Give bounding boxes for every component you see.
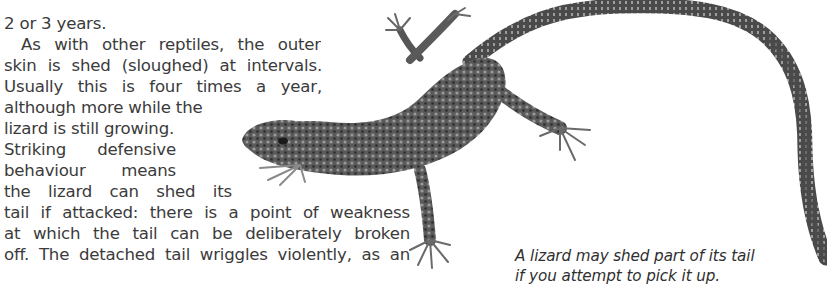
body-text: vigorous 2 or 3 years. As with other rep… — [4, 0, 412, 265]
text-line: skin is shed (sloughed) at intervals. — [4, 55, 322, 76]
text-line: tail if attacked: there is a point of we… — [4, 202, 410, 223]
caption-line: if you attempt to pick it up. — [515, 266, 755, 286]
text-line: although more while the — [4, 97, 412, 118]
text-line: behaviour means — [4, 160, 176, 181]
caption-line: A lizard may shed part of its tail — [515, 246, 755, 266]
text-line-cut: vigorous — [4, 0, 412, 13]
figure-caption: A lizard may shed part of its tail if yo… — [515, 246, 755, 286]
document-page: vigorous 2 or 3 years. As with other rep… — [0, 0, 827, 301]
text-line: at which the tail can be deliberately br… — [4, 223, 410, 244]
text-line: Striking defensive — [4, 139, 176, 160]
text-line: Usually this is four times a year, — [4, 76, 322, 97]
text-line: lizard is still growing. — [4, 118, 412, 139]
text-line: the lizard can shed its — [4, 181, 232, 202]
text-line: off. The detached tail wriggles violentl… — [4, 244, 410, 265]
text-line: 2 or 3 years. — [4, 13, 412, 34]
text-line: As with other reptiles, the outer — [4, 34, 321, 55]
lizard-tail — [470, 6, 826, 258]
